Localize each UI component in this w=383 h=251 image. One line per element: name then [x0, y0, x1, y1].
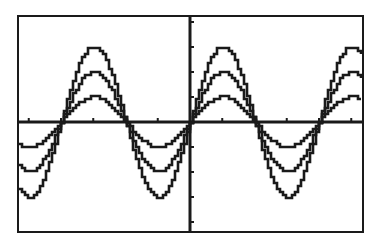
graph-screen [0, 0, 383, 251]
function-plot [0, 0, 383, 251]
